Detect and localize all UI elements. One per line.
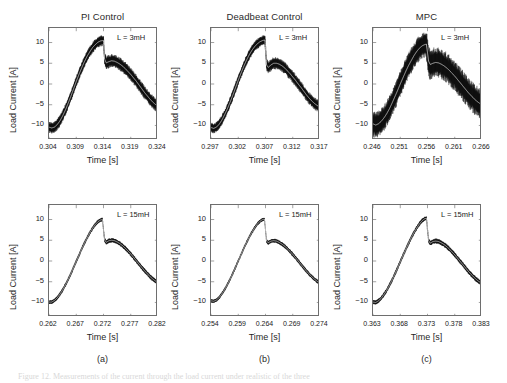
switching-hash (49, 35, 157, 133)
chart-title-pi-3mh: PI Control (48, 11, 157, 22)
y-tick-label: −10 (344, 119, 368, 128)
waveform-trace-deadbeat-15mh (211, 205, 319, 316)
y-tick-label: −10 (182, 119, 206, 128)
subcaption-a: (a) (48, 354, 157, 364)
x-axis-label-mpc-3mh: Time [s] (372, 155, 481, 165)
fundamental-line (373, 218, 481, 302)
waveform-trace-deadbeat-3mh (211, 28, 319, 139)
y-tick-label: −5 (182, 276, 206, 285)
figure-panel-grid: PI ControlLoad Current [A]−10−505100.304… (0, 0, 507, 383)
chart-panel-deadbeat-15mh: Load Current [A]−10−505100.2540.2590.264… (168, 186, 329, 356)
y-tick-label: −10 (182, 296, 206, 305)
plot-area-pi-15mh (48, 204, 157, 316)
chart-panel-pi-3mh: PI ControlLoad Current [A]−10−505100.304… (6, 9, 167, 179)
x-axis-label-deadbeat-15mh: Time [s] (210, 332, 319, 342)
y-tick-label: −5 (344, 99, 368, 108)
y-tick-label: 0 (344, 78, 368, 87)
chart-panel-deadbeat-3mh: Deadbeat ControlLoad Current [A]−10−5051… (168, 9, 329, 179)
chart-title-mpc-3mh: MPC (372, 11, 481, 22)
y-tick-label: 5 (182, 57, 206, 66)
y-tick-label: −10 (344, 296, 368, 305)
y-tick-label: 10 (20, 37, 44, 46)
plot-area-pi-3mh (48, 27, 157, 139)
y-axis-label-deadbeat-15mh: Load Current [A] (170, 244, 180, 310)
switching-hash (49, 218, 157, 304)
y-tick-label: 0 (344, 255, 368, 264)
switching-hash (211, 218, 319, 303)
x-axis-label-mpc-15mh: Time [s] (372, 332, 481, 342)
inductance-annotation-mpc-15mh: L = 15mH (441, 210, 473, 219)
y-tick-label: −5 (344, 276, 368, 285)
switching-hash (373, 216, 481, 304)
x-axis-label-pi-3mh: Time [s] (48, 155, 157, 165)
y-axis-label-mpc-3mh: Load Current [A] (332, 67, 342, 133)
subcaption-b: (b) (210, 354, 319, 364)
ripple-band (211, 218, 319, 303)
chart-panel-pi-15mh: Load Current [A]−10−505100.2620.2670.272… (6, 186, 167, 356)
chart-panel-mpc-3mh: MPCLoad Current [A]−10−505100.2460.2510.… (330, 9, 491, 179)
ripple-band (373, 217, 481, 304)
y-tick-label: 5 (20, 57, 44, 66)
fundamental-line (211, 219, 319, 301)
x-tick-label: 0.266 (465, 143, 497, 150)
y-tick-label: 5 (182, 234, 206, 243)
x-axis-label-deadbeat-3mh: Time [s] (210, 155, 319, 165)
waveform-trace-mpc-3mh (373, 28, 481, 139)
y-axis-label-pi-3mh: Load Current [A] (8, 67, 18, 133)
inductance-annotation-pi-15mh: L = 15mH (117, 210, 149, 219)
y-tick-label: 10 (182, 37, 206, 46)
waveform-trace-pi-3mh (49, 28, 157, 139)
inductance-annotation-pi-3mh: L = 3mH (117, 33, 145, 42)
y-tick-label: 10 (344, 37, 368, 46)
y-tick-label: −5 (20, 276, 44, 285)
y-tick-label: 5 (344, 234, 368, 243)
y-tick-label: −10 (20, 296, 44, 305)
y-tick-label: 0 (182, 78, 206, 87)
y-axis-label-mpc-15mh: Load Current [A] (332, 244, 342, 310)
y-tick-label: 10 (344, 214, 368, 223)
x-axis-label-pi-15mh: Time [s] (48, 332, 157, 342)
chart-panel-mpc-15mh: Load Current [A]−10−505100.3630.3680.373… (330, 186, 491, 356)
plot-area-deadbeat-3mh (210, 27, 319, 139)
chart-title-deadbeat-3mh: Deadbeat Control (210, 11, 319, 22)
inductance-annotation-mpc-3mh: L = 3mH (441, 33, 469, 42)
y-axis-label-pi-15mh: Load Current [A] (8, 244, 18, 310)
plot-area-mpc-15mh (372, 204, 481, 316)
waveform-trace-pi-15mh (49, 205, 157, 316)
subcaption-c: (c) (372, 354, 481, 364)
y-tick-label: −10 (20, 119, 44, 128)
inductance-annotation-deadbeat-3mh: L = 3mH (279, 33, 307, 42)
figure-caption: Figure 12. Measurements of the current t… (18, 372, 488, 381)
plot-area-mpc-3mh (372, 27, 481, 139)
waveform-trace-mpc-15mh (373, 205, 481, 316)
y-axis-label-deadbeat-3mh: Load Current [A] (170, 67, 180, 133)
inductance-annotation-deadbeat-15mh: L = 15mH (279, 210, 311, 219)
y-tick-label: 0 (182, 255, 206, 264)
y-tick-label: −5 (20, 99, 44, 108)
plot-area-deadbeat-15mh (210, 204, 319, 316)
y-tick-label: 0 (20, 255, 44, 264)
y-tick-label: 10 (182, 214, 206, 223)
switching-hash (211, 35, 319, 133)
y-tick-label: 0 (20, 78, 44, 87)
ripple-band (49, 218, 157, 304)
y-tick-label: 10 (20, 214, 44, 223)
ripple-band (211, 36, 319, 133)
y-tick-label: 5 (344, 57, 368, 66)
x-tick-label: 0.383 (465, 320, 497, 327)
y-tick-label: 5 (20, 234, 44, 243)
fundamental-line (49, 220, 157, 303)
fundamental-line (211, 40, 319, 128)
y-tick-label: −5 (182, 99, 206, 108)
